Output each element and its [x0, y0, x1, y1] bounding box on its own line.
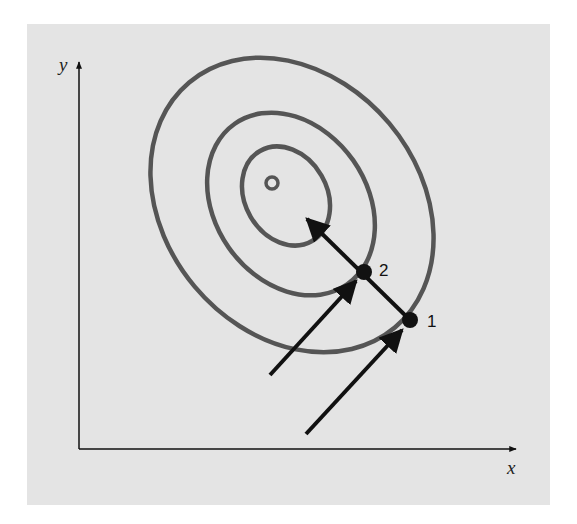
- arrows: [270, 219, 410, 434]
- contour-outer: [92, 1, 492, 409]
- optimum-marker: [266, 177, 278, 189]
- x-axis-label: x: [506, 457, 516, 478]
- contour-diagram: y x 2 1: [0, 0, 577, 524]
- contour-middle: [173, 80, 410, 328]
- axes: y x: [57, 54, 516, 478]
- point-1: [402, 312, 418, 328]
- y-axis-label: y: [57, 54, 68, 75]
- contours: [92, 1, 492, 409]
- points: 2 1: [356, 261, 436, 331]
- approach-arrow-1: [306, 330, 402, 434]
- point-2: [356, 264, 372, 280]
- point-1-label: 1: [427, 312, 436, 331]
- point-2-label: 2: [379, 261, 388, 280]
